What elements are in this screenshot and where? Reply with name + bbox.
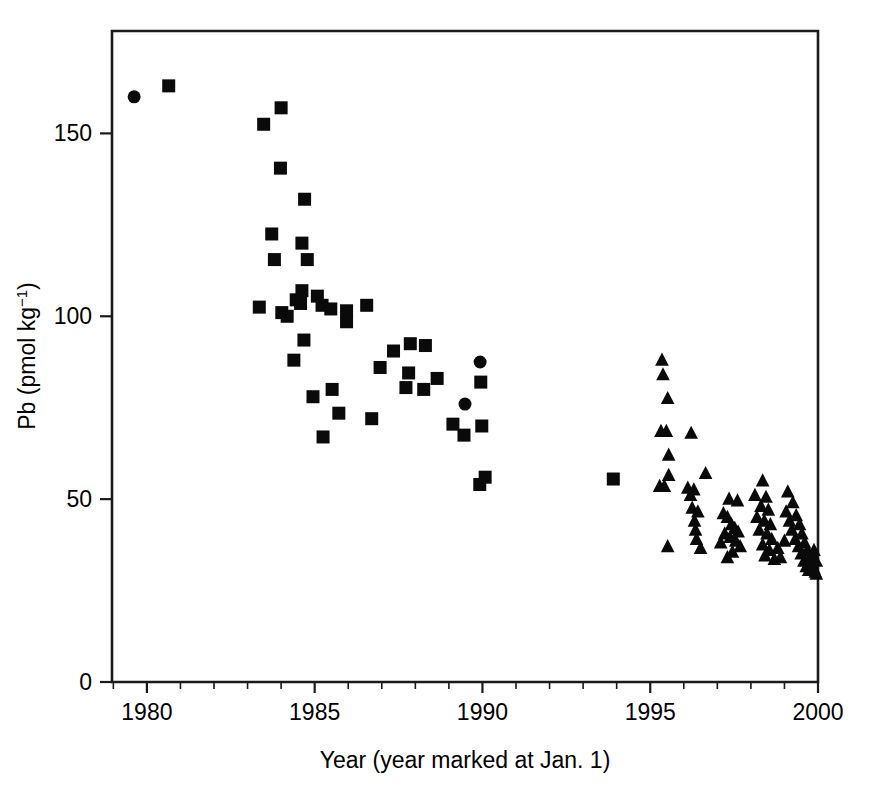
data-point-square — [317, 430, 330, 443]
data-point-circle — [474, 355, 487, 368]
data-point-square — [446, 418, 459, 431]
scatter-plot: 19801985199019952000 050100150 Year (yea… — [0, 0, 876, 789]
data-point-square — [387, 345, 400, 358]
data-point-square — [365, 412, 378, 425]
data-point-square — [295, 284, 308, 297]
data-point-square — [475, 419, 488, 432]
y-tick-label: 100 — [54, 303, 92, 329]
y-axis-title-tail: ) — [14, 282, 40, 290]
x-tick-label: 1980 — [121, 699, 172, 725]
data-point-square — [374, 361, 387, 374]
data-point-square — [457, 429, 470, 442]
x-tick-label: 1995 — [625, 699, 676, 725]
data-point-square — [297, 334, 310, 347]
data-point-square — [431, 372, 444, 385]
data-point-square — [275, 101, 288, 114]
data-point-square — [360, 299, 373, 312]
x-axis-title: Year (year marked at Jan. 1) — [320, 747, 611, 773]
y-tick-label: 50 — [66, 486, 92, 512]
data-point-square — [301, 253, 314, 266]
figure-container: 19801985199019952000 050100150 Year (yea… — [0, 0, 876, 789]
plot-background — [0, 0, 876, 789]
data-point-square — [417, 383, 430, 396]
y-axis-title-main: Pb (pmol kg — [14, 307, 40, 430]
data-point-circle — [128, 90, 141, 103]
data-point-square — [399, 381, 412, 394]
data-point-square — [295, 237, 308, 250]
data-point-circle — [459, 398, 472, 411]
data-point-square — [332, 407, 345, 420]
data-point-square — [607, 473, 620, 486]
data-point-square — [479, 471, 492, 484]
data-point-square — [324, 302, 337, 315]
data-point-square — [326, 383, 339, 396]
data-point-square — [306, 390, 319, 403]
y-axis-title-superscript: −1 — [13, 290, 30, 307]
data-point-square — [294, 297, 307, 310]
data-point-square — [162, 79, 175, 92]
data-point-square — [265, 227, 278, 240]
data-point-square — [274, 162, 287, 175]
data-point-square — [340, 304, 353, 317]
x-tick-label: 1985 — [289, 699, 340, 725]
data-point-square — [253, 301, 266, 314]
data-point-square — [402, 366, 415, 379]
data-point-square — [257, 118, 270, 131]
y-tick-label: 150 — [54, 120, 92, 146]
data-point-square — [419, 339, 432, 352]
data-point-square — [404, 337, 417, 350]
x-tick-label: 1990 — [457, 699, 508, 725]
y-tick-label: 0 — [79, 669, 92, 695]
data-point-square — [287, 354, 300, 367]
data-point-square — [281, 310, 294, 323]
data-point-square — [298, 193, 311, 206]
x-tick-label: 2000 — [792, 699, 843, 725]
data-point-square — [474, 376, 487, 389]
data-point-square — [268, 253, 281, 266]
